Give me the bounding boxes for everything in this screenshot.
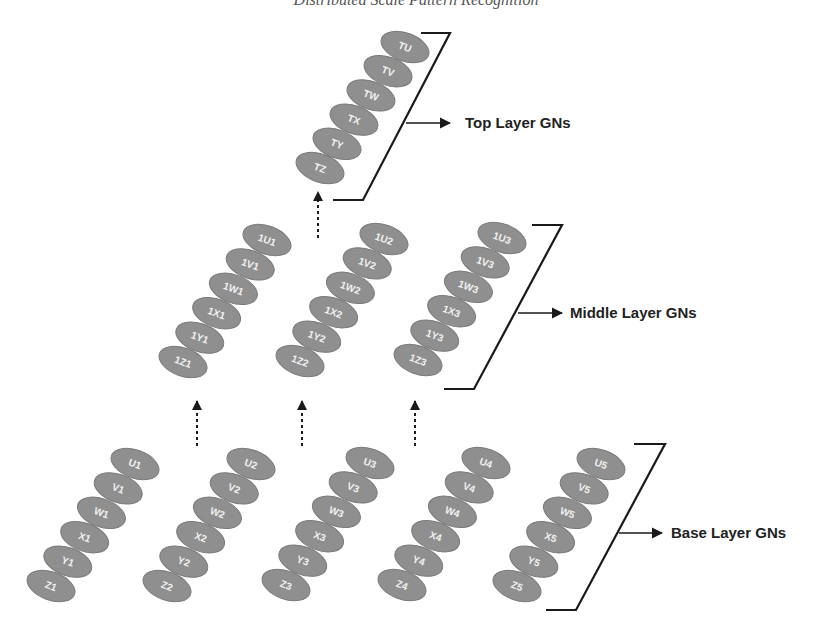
layer-label-middle: Middle Layer GNs [570,304,697,321]
layer-base: Z1Y1X1W1V1U1Z2Y2X2W2V2U2Z3Y3X3W3V3U3Z4Y4… [23,441,786,610]
node-column: 1Z21Y21X21W21V21U2 [272,217,413,382]
layer-top: TZTYTXTWTVTUTop Layer GNs [292,25,571,200]
layer-middle: 1Z11Y11X11W11V11U11Z21Y21X21W21V21U21Z31… [155,216,697,389]
hierarchical-graph-neuron-diagram: TZTYTXTWTVTUTop Layer GNs1Z11Y11X11W11V1… [0,0,832,637]
node-column: 1Z11Y11X11W11V11U1 [155,218,296,383]
node-column: Z2Y2X2W2V2U2 [139,442,280,607]
layer-label-top: Top Layer GNs [465,114,571,131]
node-column: 1Z31Y31X31W31V31U3 [390,216,531,381]
node-column: Z3Y3X3W3V3U3 [258,441,399,606]
layers-group: TZTYTXTWTVTUTop Layer GNs1Z11Y11X11W11V1… [23,25,786,610]
node-column: Z1Y1X1W1V1U1 [23,442,164,607]
layer-label-base: Base Layer GNs [671,524,786,541]
